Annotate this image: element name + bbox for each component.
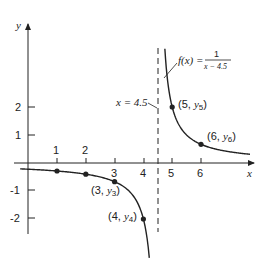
y-tick-neg1: -1 xyxy=(10,184,20,196)
label-point-6: (6, y6) xyxy=(207,130,236,144)
data-point-1 xyxy=(54,168,59,173)
hyperbola-figure: x y 1 2 3 4 5 6 2 1 -1 -2 (3, y3) (4, xyxy=(0,0,264,268)
x-axis-label: x xyxy=(246,167,252,179)
x-tick-2: 2 xyxy=(82,144,88,156)
x-tick-5: 5 xyxy=(168,167,174,179)
function-label: f(x) = 1 x − 4.5 xyxy=(164,49,231,78)
data-point-4 xyxy=(141,216,146,221)
function-label-denominator: x − 4.5 xyxy=(203,62,227,71)
x-tick-4: 4 xyxy=(140,167,146,179)
y-tick-neg2: -2 xyxy=(10,212,20,224)
asymptote-label: x = 4.5 xyxy=(115,96,157,108)
y-tick-1: 1 xyxy=(15,129,21,141)
label-point-4: (4, y4) xyxy=(108,210,137,224)
function-label-lhs: f(x) = xyxy=(178,54,203,67)
data-point-6 xyxy=(198,142,203,147)
x-ticks xyxy=(57,158,201,163)
label-point-5: (5, y5) xyxy=(178,98,207,112)
point-labels: (3, y3) (4, y4) (5, y5) (6, y6) xyxy=(91,98,236,224)
function-label-numerator: 1 xyxy=(214,49,219,59)
x-tick-1: 1 xyxy=(53,144,59,156)
data-point-2 xyxy=(83,172,88,177)
x-tick-6: 6 xyxy=(197,167,203,179)
asymptote-label-text: x = 4.5 xyxy=(115,96,148,108)
label-point-3: (3, y3) xyxy=(91,184,120,198)
x-tick-3: 3 xyxy=(111,167,117,179)
y-axis-label: y xyxy=(15,19,21,31)
curve-left-branch xyxy=(20,169,149,258)
y-tick-2: 2 xyxy=(15,101,21,113)
x-tick-labels: 1 2 3 4 5 6 xyxy=(53,144,203,179)
data-point-5 xyxy=(170,104,175,109)
